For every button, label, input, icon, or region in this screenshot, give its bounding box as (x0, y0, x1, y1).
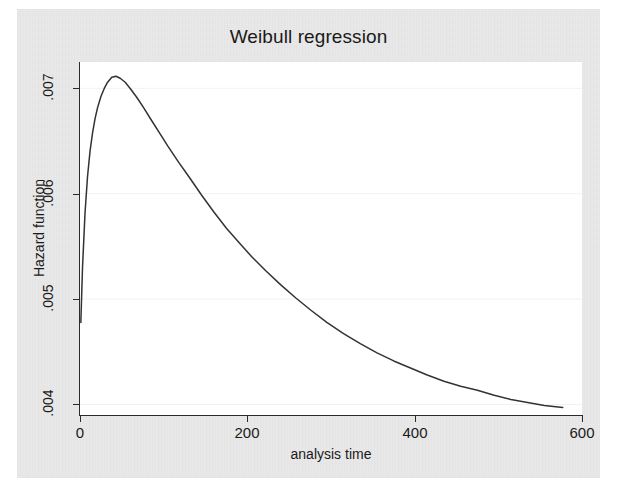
x-tick-label: 200 (217, 424, 277, 441)
series-group (81, 76, 563, 407)
x-tick-mark (247, 416, 248, 422)
chart-title: Weibull regression (0, 26, 617, 48)
x-tick-mark (582, 416, 583, 422)
x-axis-title: analysis time (80, 446, 582, 462)
y-tick-mark (73, 299, 79, 300)
x-axis-line (79, 415, 583, 416)
x-tick-label: 0 (50, 424, 110, 441)
plot-area (80, 62, 582, 415)
y-tick-label: .007 (40, 65, 56, 109)
screenshot-root: Weibull regression .004.005.006.007 0200… (0, 0, 617, 497)
series-line-0 (81, 76, 563, 407)
x-tick-mark (415, 416, 416, 422)
x-tick-mark (80, 416, 81, 422)
hazard-function-plot (80, 62, 582, 415)
y-axis-title: Hazard function (31, 168, 47, 288)
y-tick-mark (73, 88, 79, 89)
y-tick-mark (73, 194, 79, 195)
x-tick-label: 400 (385, 424, 445, 441)
y-axis-line (79, 62, 80, 416)
y-tick-mark (73, 404, 79, 405)
gridlines-group (80, 88, 582, 404)
x-tick-label: 600 (552, 424, 612, 441)
y-tick-label: .004 (40, 381, 56, 425)
